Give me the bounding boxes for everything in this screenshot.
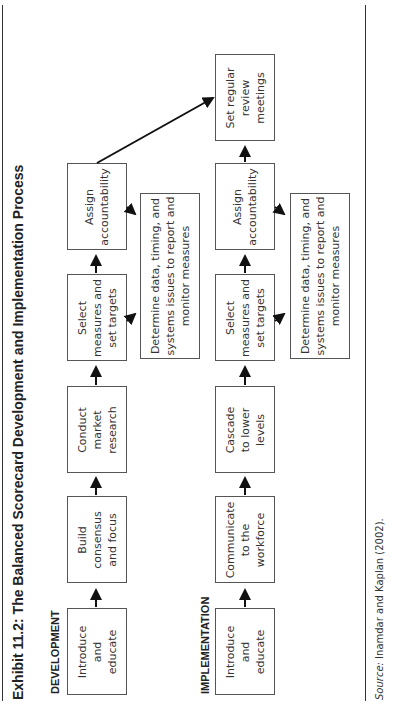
flow-arrows bbox=[0, 0, 400, 726]
arrow-icon bbox=[127, 314, 135, 321]
arrow-icon bbox=[97, 98, 213, 163]
arrow-icon bbox=[275, 207, 284, 214]
source-note: Source: Inamdar and Kaplan (2002). bbox=[374, 518, 385, 700]
arrow-icon bbox=[275, 314, 284, 321]
arrow-icon bbox=[127, 207, 135, 214]
